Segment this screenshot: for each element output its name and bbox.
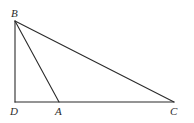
segments <box>15 21 174 102</box>
segment-bc <box>15 21 174 102</box>
label-c: C <box>170 105 178 117</box>
label-b: B <box>11 7 18 19</box>
label-a: A <box>54 105 62 117</box>
triangle-diagram: B D A C <box>0 0 194 123</box>
segment-ba <box>15 21 59 102</box>
vertex-labels: B D A C <box>9 7 178 117</box>
label-d: D <box>9 105 18 117</box>
